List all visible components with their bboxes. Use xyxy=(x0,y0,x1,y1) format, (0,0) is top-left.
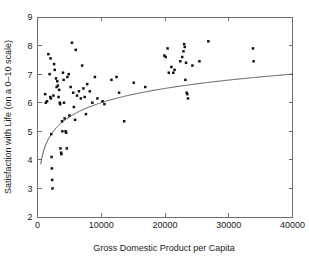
data-point xyxy=(172,71,175,74)
x-tick-label: 10000 xyxy=(89,220,114,230)
data-point xyxy=(50,156,53,159)
scatter-plot: 23456789010000200003000040000 Gross Dome… xyxy=(0,0,309,262)
y-tick-label: 9 xyxy=(27,12,32,22)
data-point xyxy=(75,49,78,52)
data-point xyxy=(60,153,63,156)
fit-curve xyxy=(41,74,293,164)
data-point xyxy=(52,94,55,97)
y-tick-label: 6 xyxy=(27,98,32,108)
data-point xyxy=(184,79,187,82)
data-point xyxy=(48,73,51,76)
data-point xyxy=(252,60,255,63)
data-point xyxy=(185,61,188,64)
data-point xyxy=(51,179,54,182)
data-point xyxy=(103,103,106,106)
data-point xyxy=(198,60,201,63)
data-point xyxy=(49,57,52,60)
data-point xyxy=(94,76,97,79)
plot-axes xyxy=(38,17,293,217)
data-point xyxy=(91,101,94,104)
x-tick-label: 20000 xyxy=(152,220,177,230)
y-tick-label: 7 xyxy=(27,70,32,80)
data-point xyxy=(186,93,189,96)
data-point xyxy=(82,87,85,90)
data-point xyxy=(168,71,171,74)
data-point xyxy=(207,40,210,43)
data-point xyxy=(166,47,169,50)
data-point xyxy=(67,73,70,76)
data-point xyxy=(252,47,255,50)
data-point xyxy=(181,56,184,59)
x-axis-title: Gross Domestic Product per Capita xyxy=(93,243,235,253)
data-point xyxy=(115,76,118,79)
data-point xyxy=(89,90,92,93)
data-point xyxy=(83,96,86,99)
data-point xyxy=(50,133,53,136)
y-tick-label: 5 xyxy=(27,127,32,137)
data-point xyxy=(58,89,61,92)
data-point xyxy=(144,86,147,89)
data-point xyxy=(164,56,167,59)
data-point xyxy=(44,93,47,96)
x-tick-label: 30000 xyxy=(216,220,241,230)
data-point xyxy=(123,120,126,123)
data-point xyxy=(118,91,121,94)
y-tick-label: 4 xyxy=(27,155,32,165)
data-point xyxy=(61,120,64,123)
data-point xyxy=(78,90,81,93)
data-point xyxy=(71,41,74,44)
data-point xyxy=(191,64,194,67)
data-point xyxy=(170,66,173,69)
data-point xyxy=(59,147,62,150)
data-point xyxy=(62,71,65,74)
data-point xyxy=(68,114,71,117)
y-tick-label: 8 xyxy=(27,41,32,51)
data-point xyxy=(76,94,79,97)
data-point xyxy=(72,91,75,94)
data-points xyxy=(44,40,255,190)
data-point xyxy=(74,119,77,122)
axis-ticks xyxy=(38,17,293,217)
data-point xyxy=(62,79,65,82)
data-point xyxy=(55,77,58,80)
data-point xyxy=(63,101,66,104)
y-axis-title: Satisfaction with Life (on a 0–10 scale) xyxy=(3,40,13,194)
data-point xyxy=(86,83,89,86)
trend-line xyxy=(41,74,293,164)
data-point xyxy=(50,97,53,100)
data-point xyxy=(187,97,190,100)
axis-tick-labels: 23456789010000200003000040000 xyxy=(27,12,305,230)
y-tick-label: 3 xyxy=(27,184,32,194)
data-point xyxy=(182,50,185,53)
data-point xyxy=(173,69,176,72)
data-point xyxy=(53,63,56,66)
data-point xyxy=(57,96,60,99)
data-point xyxy=(73,106,76,109)
data-point xyxy=(65,131,68,134)
data-point xyxy=(63,117,65,120)
data-point xyxy=(53,69,56,72)
data-point xyxy=(47,53,50,56)
data-point xyxy=(96,97,99,100)
data-point xyxy=(184,46,187,49)
data-point xyxy=(69,86,72,89)
data-point xyxy=(85,113,88,116)
chart-figure: 23456789010000200003000040000 Gross Dome… xyxy=(0,0,309,262)
data-point xyxy=(51,187,54,190)
x-tick-label: 40000 xyxy=(280,220,305,230)
data-point xyxy=(80,97,83,100)
data-point xyxy=(81,64,84,67)
data-point xyxy=(183,43,186,46)
data-point xyxy=(110,79,113,82)
data-point xyxy=(51,167,54,170)
data-point xyxy=(59,103,62,106)
data-point xyxy=(179,60,182,63)
data-point xyxy=(56,80,59,83)
x-tick-label: 0 xyxy=(35,220,40,230)
y-tick-label: 2 xyxy=(27,212,32,222)
data-point xyxy=(101,100,104,103)
plot-frame xyxy=(38,17,293,217)
data-point xyxy=(61,130,64,133)
data-point xyxy=(133,81,136,84)
data-point xyxy=(57,84,60,87)
